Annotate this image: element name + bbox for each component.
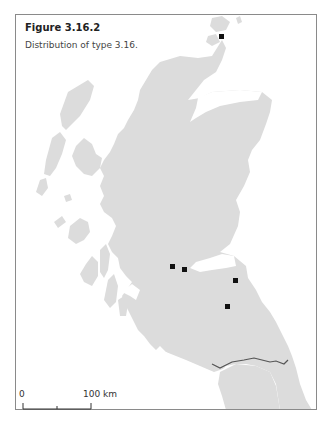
isle-of-skye: [72, 138, 102, 176]
kintyre: [104, 274, 118, 308]
figure-caption: Distribution of type 3.16.: [25, 40, 138, 50]
scale-bar: [23, 403, 91, 409]
site-marker: [225, 304, 230, 309]
orkney-islands: [210, 16, 230, 32]
scale-end-label: 100 km: [83, 389, 117, 399]
isle-of-mull: [68, 218, 90, 244]
scale-start-label: 0: [19, 389, 25, 399]
islay-jura: [80, 256, 98, 286]
site-marker: [233, 278, 238, 283]
site-marker: [182, 267, 187, 272]
site-marker: [170, 264, 175, 269]
site-marker: [219, 34, 224, 39]
scotland-map: [0, 0, 327, 426]
outer-hebrides: [60, 80, 94, 130]
figure-title: Figure 3.16.2: [25, 22, 100, 33]
